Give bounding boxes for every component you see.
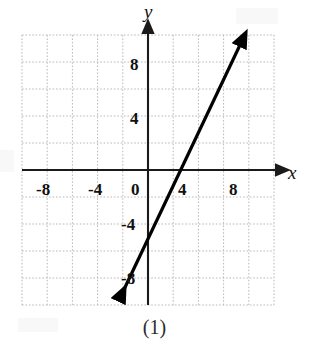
- y-tick-label: 8: [130, 56, 139, 73]
- y-tick-label: -4: [121, 216, 135, 233]
- graph-canvas: [0, 0, 309, 339]
- y-tick-label: -8: [121, 270, 135, 287]
- x-tick-label: -4: [88, 181, 102, 198]
- x-tick-label-origin: 0: [131, 181, 140, 198]
- y-tick-label: 4: [130, 110, 139, 127]
- x-tick-label: -8: [36, 181, 50, 198]
- x-tick-label: 4: [178, 181, 187, 198]
- x-tick-label: 8: [229, 181, 238, 198]
- x-axis-label: x: [288, 163, 296, 182]
- coordinate-plane-figure: y x -8 -4 0 4 8 8 4 -4 -8 (1): [0, 0, 309, 339]
- data-line-series: [119, 45, 240, 300]
- y-axis-label: y: [144, 2, 152, 21]
- figure-caption: (1): [0, 316, 309, 339]
